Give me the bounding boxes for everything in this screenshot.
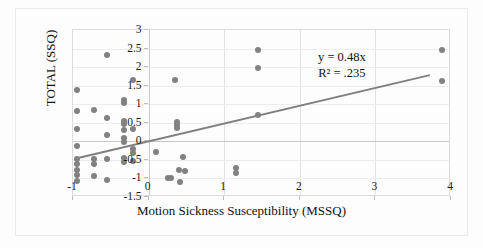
x-tick-label: -1: [67, 180, 77, 192]
scatter-point: [74, 108, 80, 114]
scatter-point: [74, 143, 80, 149]
x-tick-label: 3: [372, 180, 378, 192]
y-tick-label: -1: [106, 171, 142, 183]
scatter-point: [121, 127, 127, 133]
figure-container: -101234 -1.5-1-0.500.511.522.53 y = 0.48…: [0, 0, 483, 248]
y-tick-label: -0.5: [106, 153, 142, 165]
x-tick-mark: [223, 196, 224, 200]
y-tick-mark: [144, 66, 148, 67]
y-axis-title: TOTAL (SSQ): [43, 13, 59, 123]
y-tick-mark: [144, 196, 148, 197]
y-tick-label: 2: [106, 60, 142, 72]
scatter-point: [74, 87, 80, 93]
y-tick-label: 1: [106, 97, 142, 109]
scatter-point: [180, 154, 186, 160]
y-tick-label: 0: [106, 134, 142, 146]
y-tick-label: 3: [106, 23, 142, 35]
y-tick-label: 2.5: [106, 42, 142, 54]
r-squared-text: R² = .235: [318, 66, 366, 82]
scatter-point: [233, 170, 239, 176]
x-tick-label: 0: [145, 180, 151, 192]
y-tick-mark: [144, 103, 148, 104]
y-tick-label: -1.5: [106, 190, 142, 202]
scatter-point: [74, 126, 80, 132]
trendline-annotation: y = 0.48x R² = .235: [318, 50, 366, 81]
y-tick-mark: [144, 140, 148, 141]
y-tick-mark: [144, 177, 148, 178]
y-tick-mark: [144, 48, 148, 49]
y-tick-label: 1.5: [106, 79, 142, 91]
equation-text: y = 0.48x: [318, 50, 366, 66]
x-tick-label: 2: [296, 180, 302, 192]
x-axis-title: Motion Sickness Susceptibility (MSSQ): [0, 203, 483, 219]
y-tick-mark: [144, 85, 148, 86]
y-tick-label: 0.5: [106, 116, 142, 128]
x-tick-mark: [72, 196, 73, 200]
y-tick-mark: [144, 122, 148, 123]
x-tick-label: 4: [447, 180, 453, 192]
scatter-point: [168, 175, 174, 181]
x-tick-label: 1: [220, 180, 226, 192]
x-tick-mark: [450, 196, 451, 200]
x-tick-mark: [148, 196, 149, 200]
x-tick-mark: [374, 196, 375, 200]
x-tick-mark: [299, 196, 300, 200]
scatter-point: [91, 173, 97, 179]
scatter-point: [255, 112, 261, 118]
y-tick-mark: [144, 159, 148, 160]
y-tick-mark: [144, 29, 148, 30]
scatter-point: [182, 168, 188, 174]
scatter-point: [153, 149, 159, 155]
